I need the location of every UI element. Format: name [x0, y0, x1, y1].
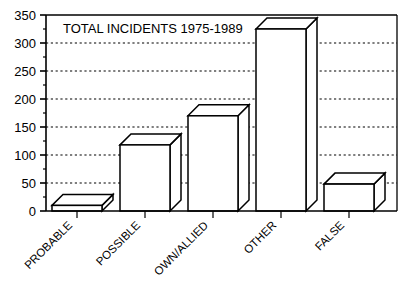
bar-chart-total-incidents: 350 300 250 200 150 100 50 0 PROBABLE PO…	[0, 0, 416, 294]
bar-other-top	[256, 18, 317, 29]
bar-false-face	[324, 184, 374, 211]
ytick-label-150: 150	[14, 120, 36, 135]
bar-other-face	[256, 29, 306, 211]
ytick-label-100: 100	[14, 148, 36, 163]
bar-own-allied-top	[188, 105, 249, 116]
x-axis-category-labels: PROBABLE POSSIBLE OWN/ALLIED OTHER FALSE	[22, 219, 347, 278]
bar-own-allied	[188, 105, 249, 211]
bar-possible-face	[120, 145, 170, 211]
ytick-label-50: 50	[22, 176, 36, 191]
cat-label-other: OTHER	[241, 219, 278, 256]
bar-own-allied-face	[188, 116, 238, 211]
ytick-label-300: 300	[14, 36, 36, 51]
x-axis-ticks	[77, 211, 349, 218]
y-axis-ticks	[40, 15, 46, 211]
bar-probable-face	[52, 205, 102, 211]
y-axis-tick-labels: 350 300 250 200 150 100 50 0	[14, 8, 36, 219]
ytick-label-0: 0	[29, 204, 36, 219]
bar-other-side	[306, 18, 317, 211]
ytick-label-200: 200	[14, 92, 36, 107]
cat-label-false: FALSE	[313, 219, 347, 253]
chart-svg: 350 300 250 200 150 100 50 0 PROBABLE PO…	[0, 0, 416, 294]
bar-other	[256, 18, 317, 211]
bar-own-allied-side	[238, 105, 249, 211]
chart-title: TOTAL INCIDENTS 1975-1989	[63, 21, 243, 36]
bar-possible-top	[120, 134, 181, 145]
cat-label-probable: PROBABLE	[22, 219, 75, 272]
bar-false	[324, 173, 385, 211]
bar-possible	[120, 134, 181, 211]
cat-label-own-allied: OWN/ALLIED	[152, 219, 211, 278]
bar-false-top	[324, 173, 385, 184]
ytick-label-250: 250	[14, 64, 36, 79]
bar-probable-top	[52, 194, 113, 205]
ytick-label-350: 350	[14, 8, 36, 23]
bar-probable	[52, 194, 113, 211]
cat-label-possible: POSSIBLE	[94, 219, 143, 268]
bar-possible-side	[170, 134, 181, 211]
